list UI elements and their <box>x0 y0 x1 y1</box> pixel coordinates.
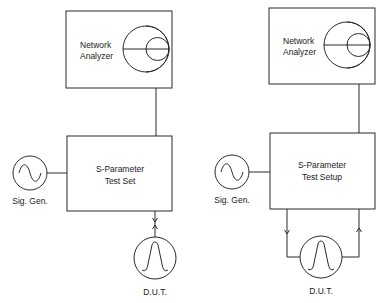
signal-generator-label: Sig. Gen. <box>12 196 47 206</box>
right-setup: Network Analyzer S-Parameter Test Setup … <box>214 8 375 296</box>
port1-line <box>287 209 300 257</box>
testsetup-to-dut-loop <box>285 209 362 257</box>
right-signal-generator: Sig. Gen. <box>214 155 270 205</box>
port2-line <box>342 209 359 257</box>
dut-circle <box>300 236 342 278</box>
network-analyzer-label-line2: Analyzer <box>80 51 113 61</box>
right-test-setup: S-Parameter Test Setup <box>270 133 375 209</box>
bandpass-response-icon <box>308 241 334 270</box>
signal-generator-label: Sig. Gen. <box>214 195 249 205</box>
dut-circle <box>134 237 176 279</box>
dut-label: D.U.T. <box>143 287 167 297</box>
left-signal-generator: Sig. Gen. <box>12 156 67 206</box>
left-test-set: S-Parameter Test Set <box>67 136 172 211</box>
sine-wave-icon <box>19 165 41 182</box>
sine-wave-icon <box>221 164 243 181</box>
test-set-label-line1: S-Parameter <box>96 164 144 174</box>
left-dut: D.U.T. <box>134 237 176 297</box>
left-network-analyzer: Network Analyzer <box>66 11 172 88</box>
left-setup: Network Analyzer S-Parameter Test Set S <box>12 11 176 297</box>
right-dut: D.U.T. <box>300 236 342 296</box>
network-analyzer-label-line2: Analyzer <box>283 47 316 57</box>
s-parameter-measurement-diagram: Network Analyzer S-Parameter Test Set S <box>0 0 384 303</box>
test-setup-box <box>270 133 375 209</box>
network-analyzer-label-line1: Network <box>80 40 112 50</box>
bandpass-response-icon <box>142 242 168 271</box>
testset-to-dut-bidirectional-link <box>153 211 158 237</box>
network-analyzer-box <box>269 8 375 84</box>
test-set-label-line2: Test Set <box>105 176 136 186</box>
network-analyzer-label-line1: Network <box>283 36 315 46</box>
dut-label: D.U.T. <box>309 286 333 296</box>
test-setup-label-line2: Test Setup <box>302 172 342 182</box>
test-setup-label-line1: S-Parameter <box>298 160 346 170</box>
right-network-analyzer: Network Analyzer <box>269 8 375 84</box>
